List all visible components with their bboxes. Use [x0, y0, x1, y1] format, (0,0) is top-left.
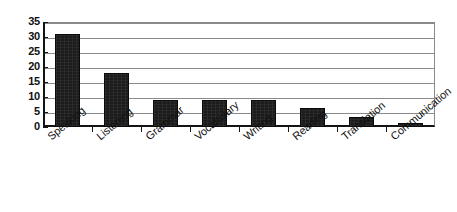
y-axis-tick-label: 30	[4, 31, 40, 42]
x-axis-category-labels: SpeakingListeningGrammarVocabularyWritin…	[43, 127, 457, 212]
y-axis-tick-label: 0	[4, 121, 40, 132]
y-axis-tick-label: 20	[4, 61, 40, 72]
bar-slot	[288, 22, 337, 127]
y-axis-tick-label: 10	[4, 91, 40, 102]
y-axis-tick-mark	[43, 52, 48, 53]
y-axis-tick-label: 25	[4, 46, 40, 57]
y-axis-tick-mark	[43, 97, 48, 98]
y-axis-tick-label: 15	[4, 76, 40, 87]
bar-chart-figure: 05101520253035 SpeakingListeningGrammarV…	[0, 0, 457, 212]
y-axis-tick-mark	[43, 37, 48, 38]
bar-slot	[239, 22, 288, 127]
y-axis-tick-mark	[43, 127, 48, 128]
y-axis-tick-mark	[43, 22, 48, 23]
y-axis-tick-labels: 05101520253035	[0, 22, 40, 127]
y-axis-tick-label: 5	[4, 106, 40, 117]
bar-slot	[92, 22, 141, 127]
y-axis-tick-mark	[43, 82, 48, 83]
y-axis-tick-mark	[43, 112, 48, 113]
y-axis-tick-label: 35	[4, 16, 40, 27]
y-axis-tick-mark	[43, 67, 48, 68]
